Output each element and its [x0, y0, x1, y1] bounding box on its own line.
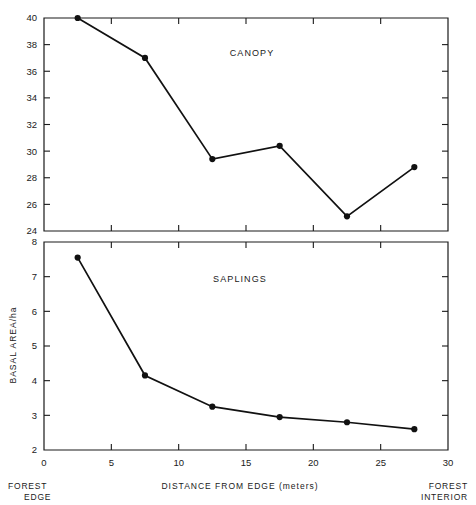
- x-tick-label: 25: [375, 457, 386, 468]
- forest-interior-note-line1: FOREST: [429, 481, 468, 491]
- y-tick-label: 28: [26, 172, 37, 183]
- y-tick-label: 30: [26, 146, 37, 157]
- canopy-y-tick-labels: 242628303234363840: [26, 12, 37, 236]
- data-point-marker: [142, 372, 148, 378]
- forest-edge-note-line2: EDGE: [24, 492, 51, 502]
- data-point-marker: [75, 15, 81, 21]
- y-tick-label: 34: [26, 92, 37, 103]
- y-tick-label: 38: [26, 39, 37, 50]
- y-tick-label: 8: [32, 236, 37, 247]
- y-tick-label: 7: [32, 271, 37, 282]
- forest-interior-note-line2: INTERIOR: [421, 492, 468, 502]
- canopy-panel-title: CANOPY: [230, 48, 275, 58]
- data-point-marker: [411, 426, 417, 432]
- y-tick-label: 6: [32, 306, 37, 317]
- saplings-panel-title: SAPLINGS: [213, 274, 267, 284]
- y-tick-label: 4: [32, 375, 37, 386]
- x-tick-label: 15: [241, 457, 252, 468]
- forest-edge-note-line1: FOREST: [8, 481, 47, 491]
- basal-area-chart: 242628303234363840 CANOPY 2345678 051015…: [0, 0, 476, 505]
- x-tick-label: 20: [308, 457, 319, 468]
- data-point-marker: [411, 164, 417, 170]
- x-axis-title: DISTANCE FROM EDGE (meters): [161, 481, 318, 491]
- data-point-marker: [209, 404, 215, 410]
- x-tick-label: 10: [173, 457, 184, 468]
- y-tick-label: 36: [26, 66, 37, 77]
- y-tick-label: 40: [26, 12, 37, 23]
- data-point-marker: [344, 419, 350, 425]
- y-tick-label: 26: [26, 199, 37, 210]
- data-point-marker: [142, 55, 148, 61]
- y-tick-label: 32: [26, 119, 37, 130]
- data-point-marker: [277, 414, 283, 420]
- data-point-marker: [277, 143, 283, 149]
- data-point-marker: [75, 255, 81, 261]
- chart-background: [0, 0, 476, 505]
- y-tick-label: 5: [32, 340, 37, 351]
- x-tick-label: 0: [41, 457, 46, 468]
- figure-container: 242628303234363840 CANOPY 2345678 051015…: [0, 0, 476, 505]
- y-tick-label: 3: [32, 410, 37, 421]
- y-tick-label: 24: [26, 225, 37, 236]
- x-tick-label: 30: [443, 457, 454, 468]
- x-tick-label: 5: [109, 457, 114, 468]
- y-axis-title: BASAL AREA/ha: [8, 307, 18, 384]
- data-point-marker: [209, 156, 215, 162]
- y-tick-label: 2: [32, 444, 37, 455]
- data-point-marker: [344, 213, 350, 219]
